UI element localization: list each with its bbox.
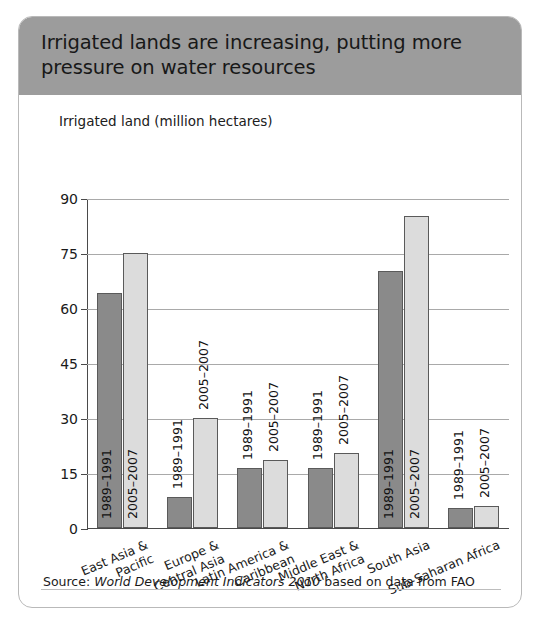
bar bbox=[237, 468, 262, 529]
gridline bbox=[87, 199, 509, 200]
bar-period-label: 1989–1991 bbox=[451, 430, 466, 500]
bar-period-label: 1989–1991 bbox=[170, 419, 185, 489]
y-tick-label: 90 bbox=[60, 191, 78, 207]
y-tick-mark bbox=[81, 309, 87, 310]
source-suffix: based on data from FAO bbox=[320, 574, 475, 589]
bar bbox=[474, 506, 499, 528]
x-axis-line bbox=[87, 528, 509, 529]
y-tick-mark bbox=[81, 419, 87, 420]
bar bbox=[448, 508, 473, 528]
source-divider bbox=[41, 589, 501, 590]
gridline bbox=[87, 474, 509, 475]
chart-subtitle: Irrigated land (million hectares) bbox=[59, 113, 273, 129]
bar bbox=[193, 418, 218, 528]
y-tick-mark bbox=[81, 364, 87, 365]
figure-panel: Irrigated lands are increasing, putting … bbox=[18, 16, 522, 608]
y-tick-label: 45 bbox=[60, 356, 78, 372]
y-tick-mark bbox=[81, 199, 87, 200]
gridline bbox=[87, 364, 509, 365]
bar-period-label: 2005–2007 bbox=[196, 340, 211, 410]
bar-period-label: 2005–2007 bbox=[407, 449, 422, 519]
y-tick-label: 75 bbox=[60, 246, 78, 262]
y-tick-mark bbox=[81, 474, 87, 475]
plot-area: 0153045607590 1989–19912005–20071989–199… bbox=[87, 199, 509, 529]
bar bbox=[263, 460, 288, 528]
source-prefix: Source: bbox=[43, 574, 94, 589]
gridline bbox=[87, 309, 509, 310]
gridline bbox=[87, 419, 509, 420]
y-tick-label: 30 bbox=[60, 411, 78, 427]
bar bbox=[334, 453, 359, 528]
bar-period-label: 1989–1991 bbox=[310, 390, 325, 460]
bar-period-label: 2005–2007 bbox=[125, 449, 140, 519]
bar-period-label: 2005–2007 bbox=[477, 428, 492, 498]
bar-period-label: 2005–2007 bbox=[266, 382, 281, 452]
y-tick-label: 15 bbox=[60, 466, 78, 482]
y-tick-label: 0 bbox=[69, 521, 78, 537]
y-tick-mark bbox=[81, 254, 87, 255]
bar-period-label: 1989–1991 bbox=[240, 390, 255, 460]
bar-period-label: 1989–1991 bbox=[99, 449, 114, 519]
y-tick-mark bbox=[81, 529, 87, 530]
bar-period-label: 2005–2007 bbox=[336, 375, 351, 445]
source-publication: World Development Indicators 2010 bbox=[94, 574, 320, 589]
figure-title-bar: Irrigated lands are increasing, putting … bbox=[19, 17, 522, 95]
bar bbox=[308, 468, 333, 529]
bar bbox=[167, 497, 192, 528]
source-note: Source: World Development Indicators 201… bbox=[43, 574, 475, 589]
bar-period-label: 1989–1991 bbox=[381, 449, 396, 519]
y-tick-label: 60 bbox=[60, 301, 78, 317]
page-title: Irrigated lands are increasing, putting … bbox=[41, 30, 501, 80]
gridline bbox=[87, 254, 509, 255]
